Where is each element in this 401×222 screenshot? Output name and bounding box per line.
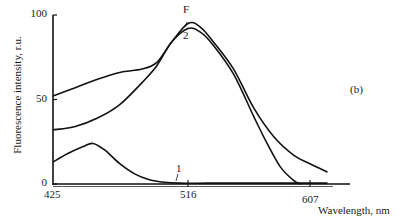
x-tick-607: 607: [302, 193, 319, 205]
fluorescence-chart: Fluorescence intensity, r.u. 100 50 0 42…: [0, 0, 401, 222]
x-axis-label: Wavelength, nm: [318, 204, 390, 216]
y-tick-0: 0: [17, 176, 47, 188]
y-tick-50: 50: [17, 92, 47, 104]
curve-2: [53, 28, 301, 184]
x-tick-425: 425: [44, 188, 61, 200]
curve-f: [53, 22, 327, 172]
x-tick-516: 516: [180, 188, 197, 200]
curve-label-2: 2: [183, 29, 189, 41]
panel-label: (b): [350, 83, 363, 95]
y-tick-100: 100: [17, 7, 47, 19]
curve-label-1: 1: [176, 162, 182, 174]
curve-1-leader: [176, 174, 178, 181]
curve-label-f: F: [183, 3, 189, 15]
